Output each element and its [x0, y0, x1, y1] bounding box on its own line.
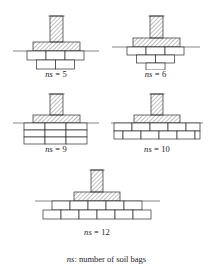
soil-bag: [137, 55, 156, 63]
soil-bag: [133, 210, 151, 219]
panel-caption-ns-5: ns = 5: [10, 70, 102, 79]
column: [50, 16, 63, 42]
note-text: number of soil bags: [79, 254, 146, 264]
panel-ns-12: ns = 12: [27, 166, 167, 237]
soil-bag: [46, 51, 65, 60]
diagram-ns-5: [10, 12, 102, 70]
diagram-svg-ns-12: [27, 166, 167, 228]
soil-bag: [141, 131, 159, 139]
soil-bag: [70, 201, 88, 210]
column: [151, 94, 163, 115]
soil-bag: [165, 47, 184, 55]
diagram-ns-10: [108, 90, 206, 145]
diagram-svg-ns-9: [10, 90, 102, 145]
soil-bag: [106, 201, 124, 210]
soil-bag: [37, 60, 56, 69]
panel-caption-ns-9: ns = 9: [10, 145, 102, 154]
soil-bag: [24, 137, 45, 144]
caption-value: 10: [161, 144, 170, 154]
column: [50, 94, 63, 115]
diagram-svg-ns-6: [108, 12, 203, 70]
caption-symbol: ns: [84, 227, 92, 237]
caption-symbol: ns: [45, 69, 53, 79]
caption-equals: =: [53, 69, 62, 79]
soil-bag: [159, 131, 177, 139]
panel-ns-5: ns = 5: [10, 12, 102, 79]
diagram-svg-ns-10: [108, 90, 206, 145]
diagram-ns-9: [10, 90, 102, 145]
soil-bag: [127, 47, 146, 55]
diagram-svg-ns-5: [10, 12, 102, 70]
column: [91, 170, 103, 192]
caption-symbol: ns: [145, 69, 153, 79]
soil-bag: [150, 123, 168, 131]
caption-equals: =: [153, 69, 162, 79]
soil-bag: [61, 210, 79, 219]
soil-bag: [24, 130, 45, 137]
diagram-ns-6: [108, 12, 203, 70]
soil-bag: [132, 123, 150, 131]
soil-bag: [52, 201, 70, 210]
soil-bag: [45, 130, 66, 137]
panel-ns-9: ns = 9: [10, 90, 102, 154]
panel-ns-10: ns = 10: [108, 90, 206, 154]
soil-bag: [97, 210, 115, 219]
figure-soil-bag-foundations: ns = 5: [0, 0, 213, 275]
soil-bag: [177, 131, 195, 139]
panel-ns-6: ns = 6: [108, 12, 203, 79]
soil-bag: [186, 123, 200, 131]
caption-value: 12: [101, 227, 110, 237]
soil-bag: [195, 131, 200, 139]
soil-bag: [65, 51, 84, 60]
soil-bag: [115, 210, 133, 219]
caption-equals: =: [92, 227, 101, 237]
caption-equals: =: [152, 144, 161, 154]
caption-symbol: ns: [45, 144, 53, 154]
soil-bag: [27, 51, 46, 60]
panel-caption-ns-10: ns = 10: [108, 145, 206, 154]
panel-caption-ns-6: ns = 6: [108, 70, 203, 79]
diagram-ns-12: [27, 166, 167, 228]
soil-bag: [45, 123, 66, 130]
figure-note: ns: number of soil bags: [0, 254, 213, 264]
soil-bag: [56, 60, 75, 69]
footing: [33, 42, 80, 51]
footing: [134, 115, 180, 123]
soil-bag: [24, 123, 45, 130]
soil-bag: [43, 210, 61, 219]
footing: [133, 38, 180, 47]
panel-caption-ns-12: ns = 12: [27, 228, 167, 237]
soil-bag: [45, 137, 66, 144]
caption-value: 6: [162, 69, 166, 79]
soil-bag: [168, 123, 186, 131]
soil-bag: [114, 123, 132, 131]
caption-symbol: ns: [144, 144, 152, 154]
footing: [74, 192, 120, 201]
caption-equals: =: [53, 144, 62, 154]
soil-bag: [66, 137, 87, 144]
caption-value: 5: [62, 69, 66, 79]
soil-bag: [79, 210, 97, 219]
soil-bag: [156, 55, 175, 63]
soil-bag: [66, 123, 87, 130]
soil-bag: [88, 201, 106, 210]
caption-value: 9: [62, 144, 66, 154]
soil-bag: [146, 63, 165, 70]
footing: [33, 115, 80, 123]
column: [150, 16, 163, 38]
soil-bag: [123, 131, 141, 139]
soil-bag: [124, 201, 142, 210]
soil-bag: [66, 130, 87, 137]
soil-bag: [146, 47, 165, 55]
soil-bag: [114, 131, 123, 139]
